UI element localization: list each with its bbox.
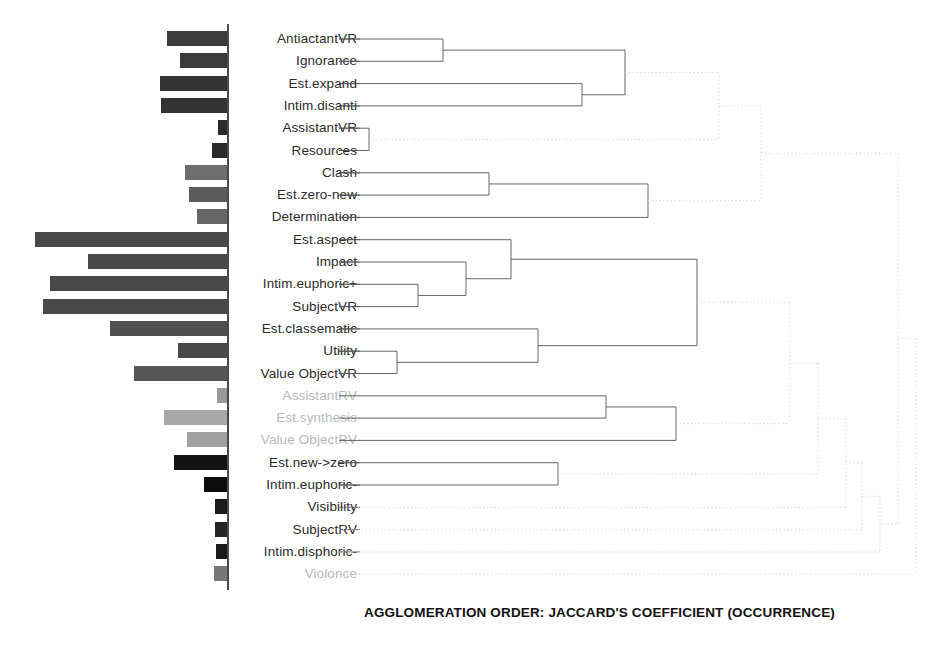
dendrogram-tree [0,0,944,651]
dendrogram-figure: AntiactantVRIgnoranceEst.expandIntim.dis… [0,0,944,651]
chart-title: AGGLOMERATION ORDER: JACCARD'S COEFFICIE… [364,605,835,620]
chart-plot-area: AntiactantVRIgnoranceEst.expandIntim.dis… [0,0,944,651]
